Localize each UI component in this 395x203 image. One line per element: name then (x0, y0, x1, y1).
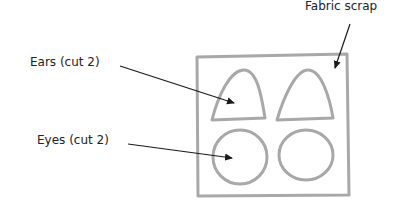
ears-label: Ears (cut 2) (30, 55, 100, 69)
fabric-scrap-label: Fabric scrap (305, 0, 377, 13)
diagram-canvas (0, 0, 395, 203)
eyes-label: Eyes (cut 2) (37, 133, 109, 147)
ear-shape-left (212, 70, 265, 120)
eye-shape-right (279, 130, 333, 180)
ear-shape-right (277, 70, 333, 120)
ears-arrow (120, 66, 234, 103)
